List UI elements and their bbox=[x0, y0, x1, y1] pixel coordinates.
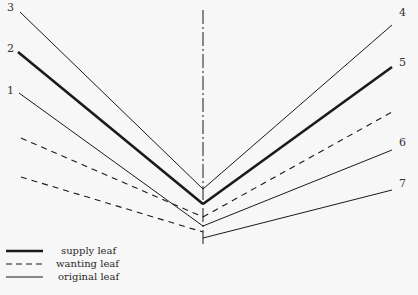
line-label-3: 3 bbox=[7, 2, 14, 13]
right-6-line bbox=[203, 150, 392, 226]
right-5-line bbox=[203, 67, 392, 204]
leaf-lines bbox=[18, 12, 392, 238]
right-4-line bbox=[203, 25, 392, 189]
line-label-6: 6 bbox=[399, 137, 406, 148]
line-label-2: 2 bbox=[7, 43, 14, 54]
left-1-line bbox=[19, 93, 203, 226]
left-2-line bbox=[18, 52, 203, 204]
legend-swatches bbox=[6, 251, 43, 277]
legend-label-original: original leaf bbox=[58, 272, 119, 282]
line-label-1: 1 bbox=[7, 85, 14, 96]
left-dash-upper-line bbox=[21, 138, 203, 217]
legend-label-wanting: wanting leaf bbox=[56, 259, 119, 269]
right-7-line bbox=[203, 190, 392, 238]
left-dash-lower-line bbox=[21, 177, 203, 232]
legend-label-supply: supply leaf bbox=[61, 246, 116, 256]
left-3-line bbox=[20, 12, 203, 189]
line-label-5: 5 bbox=[399, 57, 406, 68]
line-label-7: 7 bbox=[399, 178, 406, 189]
line-label-4: 4 bbox=[399, 7, 406, 18]
leaf-diagram: 3 2 1 4 5 6 7 supply leaf wanting leaf o… bbox=[0, 0, 418, 295]
